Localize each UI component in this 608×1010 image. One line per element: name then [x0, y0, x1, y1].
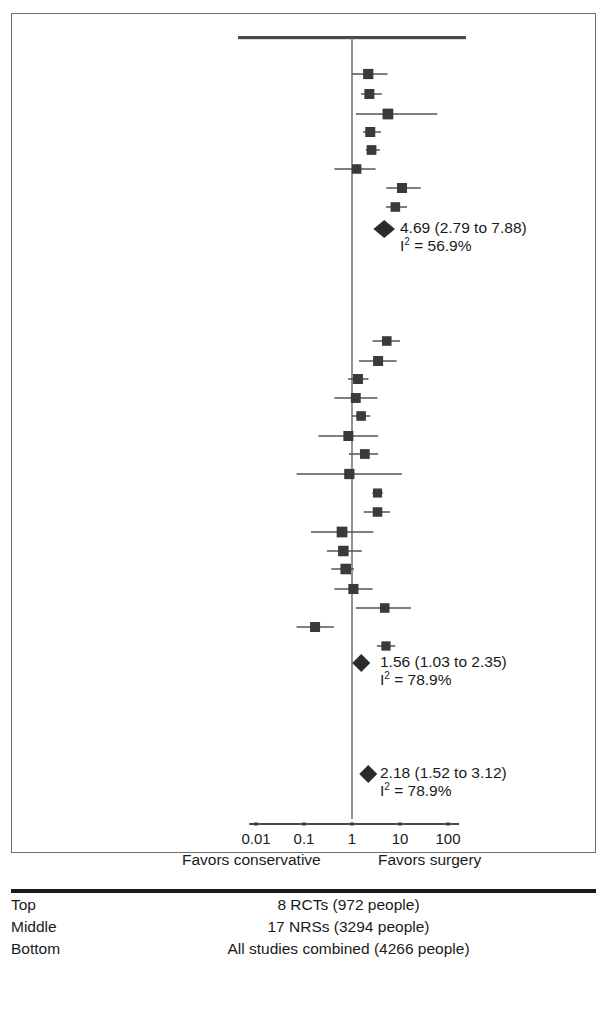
point-estimate-marker [397, 183, 407, 193]
point-estimate-marker [352, 164, 362, 174]
forest-row-middle-4 [352, 411, 370, 421]
point-estimate-marker [391, 202, 401, 212]
forest-row-top-1 [361, 89, 382, 99]
forest-row-middle-16 [377, 641, 395, 650]
point-estimate-marker [360, 449, 370, 459]
table-cell-position: Top [11, 895, 161, 915]
axis-label-favors-surgery: Favors surgery [378, 851, 481, 869]
table-row: Middle17 NRSs (3294 people) [11, 915, 596, 937]
axis-tick-3 [398, 822, 401, 825]
axis-tick-2 [350, 822, 353, 825]
point-estimate-marker [363, 69, 373, 79]
forest-row-middle-2 [348, 374, 368, 384]
forest-row-middle-9 [364, 507, 390, 517]
forest-row-middle-6 [349, 449, 378, 459]
point-estimate-marker [373, 488, 382, 497]
axis-tick-label-1: 0.1 [294, 830, 315, 847]
het-value-top: 56.9% [428, 238, 472, 255]
table-row: BottomAll studies combined (4266 people) [11, 937, 596, 959]
forest-row-middle-15 [297, 622, 334, 632]
point-estimate-marker [310, 622, 320, 632]
table-cell-position: Middle [11, 917, 161, 937]
het-value-bottom: 78.9% [408, 783, 452, 800]
legend-table: Top8 RCTs (972 people)Middle17 NRSs (329… [11, 889, 596, 958]
forest-row-middle-13 [334, 584, 372, 594]
point-estimate-marker [351, 393, 361, 403]
table-cell-description: 17 NRSs (3294 people) [161, 917, 596, 937]
point-estimate-marker [367, 145, 377, 155]
axis-tick-0 [254, 822, 257, 825]
forest-row-middle-1 [359, 356, 397, 366]
axis-tick-label-2: 1 [348, 830, 356, 847]
summary-diamond-top [373, 220, 395, 238]
heterogeneity-top: I2 = 56.9% [400, 236, 527, 255]
forest-row-middle-3 [334, 393, 377, 403]
point-estimate-marker [353, 374, 363, 384]
forest-row-middle-10 [311, 527, 373, 538]
point-estimate-marker [356, 411, 366, 421]
forest-row-middle-0 [373, 336, 400, 346]
point-estimate-marker [373, 356, 383, 366]
heterogeneity-middle: I2 = 78.9% [380, 670, 507, 689]
point-estimate-marker [380, 603, 390, 613]
axis-tick-1 [302, 822, 305, 825]
table-cell-position: Bottom [11, 939, 161, 959]
het-eq-middle: = [390, 672, 408, 689]
forest-plot-area: 4.69 (2.79 to 7.88) I2 = 56.9% 1.56 (1.0… [12, 14, 597, 854]
forest-row-middle-8 [372, 488, 383, 497]
point-estimate-marker [364, 89, 374, 99]
point-estimate-marker [381, 641, 390, 650]
summary-label-bottom: 2.18 (1.52 to 3.12) I2 = 78.9% [380, 764, 507, 800]
forest-row-top-6 [386, 183, 420, 193]
axis-tick-label-3: 10 [392, 830, 409, 847]
point-estimate-marker [365, 127, 375, 137]
forest-row-middle-14 [356, 603, 411, 613]
summary-diamond-middle [352, 654, 370, 672]
forest-row-middle-12 [331, 564, 354, 575]
point-estimate-marker [382, 336, 392, 346]
forest-row-top-5 [334, 164, 375, 174]
forest-plot-figure: 4.69 (2.79 to 7.88) I2 = 56.9% 1.56 (1.0… [11, 13, 596, 853]
het-value-middle: 78.9% [408, 672, 452, 689]
forest-row-top-7 [386, 202, 407, 212]
forest-row-middle-11 [327, 546, 362, 557]
table-cell-description: All studies combined (4266 people) [161, 939, 596, 959]
forest-row-top-4 [366, 145, 380, 155]
summary-label-top: 4.69 (2.79 to 7.88) I2 = 56.9% [400, 219, 527, 255]
point-estimate-marker [343, 431, 353, 441]
forest-row-top-2 [356, 109, 438, 120]
forest-row-middle-5 [318, 431, 378, 441]
point-estimate-marker [344, 469, 354, 479]
summary-diamond-bottom [359, 765, 377, 783]
point-estimate-marker [337, 527, 348, 538]
axis-label-favors-conservative: Favors conservative [182, 851, 321, 869]
heterogeneity-bottom: I2 = 78.9% [380, 781, 507, 800]
point-estimate-marker [383, 109, 394, 120]
het-eq-top: = [410, 238, 428, 255]
axis-tick-4 [446, 822, 449, 825]
axis-tick-label-4: 100 [435, 830, 460, 847]
forest-row-middle-7 [297, 469, 402, 479]
point-estimate-marker [340, 564, 351, 575]
point-estimate-marker [348, 584, 358, 594]
forest-row-top-3 [363, 127, 381, 137]
summary-estimate-middle: 1.56 (1.03 to 2.35) [380, 653, 507, 670]
axis-tick-label-0: 0.01 [241, 830, 270, 847]
point-estimate-marker [373, 507, 383, 517]
summary-estimate-top: 4.69 (2.79 to 7.88) [400, 219, 527, 236]
table-cell-description: 8 RCTs (972 people) [161, 895, 596, 915]
summary-label-middle: 1.56 (1.03 to 2.35) I2 = 78.9% [380, 653, 507, 689]
forest-row-top-0 [352, 69, 388, 79]
het-eq-bottom: = [390, 783, 408, 800]
point-estimate-marker [338, 546, 349, 557]
forest-plot-svg [12, 14, 597, 854]
legend-table-rows: Top8 RCTs (972 people)Middle17 NRSs (329… [11, 893, 596, 958]
summary-estimate-bottom: 2.18 (1.52 to 3.12) [380, 764, 507, 781]
table-row: Top8 RCTs (972 people) [11, 893, 596, 915]
